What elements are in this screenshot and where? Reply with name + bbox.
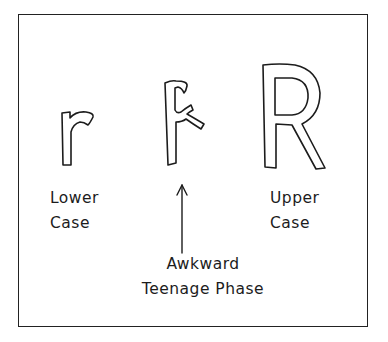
awkward-r-glyph: [165, 81, 204, 165]
upper-case-label-line1: Upper: [270, 186, 319, 211]
lower-case-label: Lower Case: [50, 186, 99, 236]
upper-case-label-line2: Case: [270, 211, 319, 236]
awkward-teenage-phase-label: Awkward Teenage Phase: [138, 252, 268, 302]
lowercase-r-glyph: [62, 112, 93, 165]
lower-case-label-line1: Lower: [50, 186, 99, 211]
lower-case-label-line2: Case: [50, 211, 99, 236]
uppercase-R-counter: [275, 78, 308, 115]
upper-case-label: Upper Case: [270, 186, 319, 236]
awkward-label-line2: Teenage Phase: [138, 277, 268, 302]
awkward-label-line1: Awkward: [138, 252, 268, 277]
